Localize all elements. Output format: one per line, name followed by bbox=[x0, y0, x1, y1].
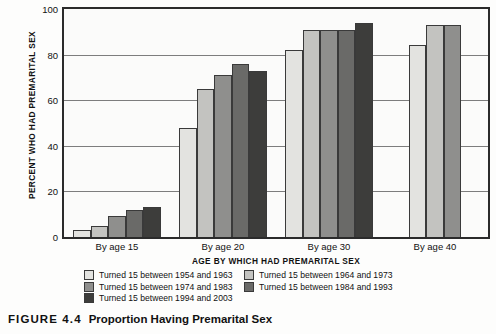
plot-inner bbox=[64, 9, 488, 237]
legend-item: Turned 15 between 1994 and 2003 bbox=[84, 293, 232, 303]
bar bbox=[285, 50, 303, 237]
bar bbox=[320, 30, 338, 237]
figure-number: FIGURE 4.4 bbox=[8, 313, 82, 325]
bar bbox=[426, 25, 444, 237]
bar bbox=[355, 23, 373, 237]
bar bbox=[91, 226, 109, 237]
legend-item: Turned 15 between 1974 and 1983 bbox=[84, 282, 232, 292]
x-axis-title: AGE BY WHICH HAD PREMARITAL SEX bbox=[62, 256, 490, 266]
legend-label: Turned 15 between 1994 and 2003 bbox=[99, 293, 232, 303]
legend-label: Turned 15 between 1964 and 1973 bbox=[259, 270, 392, 280]
x-category-label: By age 30 bbox=[308, 241, 351, 252]
bar bbox=[214, 75, 232, 237]
bar-group bbox=[285, 9, 373, 237]
bar bbox=[197, 89, 215, 237]
bar bbox=[143, 207, 161, 237]
figure-title: Proportion Having Premarital Sex bbox=[89, 313, 272, 325]
x-axis-category-labels: By age 15By age 20By age 30By age 40 bbox=[62, 241, 490, 255]
legend-swatch-icon bbox=[244, 282, 254, 292]
legend-swatch-icon bbox=[84, 293, 94, 303]
chart-legend: Turned 15 between 1954 and 1963Turned 15… bbox=[62, 270, 462, 304]
bar-group bbox=[179, 9, 267, 237]
y-tick-label: 40 bbox=[30, 140, 58, 151]
bar bbox=[232, 64, 250, 237]
y-axis-tick-labels: 020406080100 bbox=[30, 0, 58, 245]
y-tick-label: 60 bbox=[30, 95, 58, 106]
legend-label: Turned 15 between 1974 and 1983 bbox=[99, 282, 232, 292]
bar-group bbox=[409, 9, 462, 237]
bars-layer bbox=[64, 9, 488, 237]
x-category-label: By age 40 bbox=[414, 241, 457, 252]
bar bbox=[108, 216, 126, 237]
y-tick-label: 20 bbox=[30, 186, 58, 197]
legend-swatch-icon bbox=[84, 270, 94, 280]
bar-group bbox=[73, 9, 161, 237]
legend-item: Turned 15 between 1984 and 1993 bbox=[244, 282, 392, 292]
bar bbox=[409, 45, 427, 237]
x-category-label: By age 20 bbox=[202, 241, 245, 252]
bar bbox=[249, 71, 267, 237]
bar bbox=[73, 230, 91, 237]
legend-swatch-icon bbox=[84, 282, 94, 292]
y-tick-label: 0 bbox=[30, 232, 58, 243]
bar bbox=[179, 128, 197, 237]
bar bbox=[303, 30, 321, 237]
y-tick-label: 100 bbox=[30, 4, 58, 15]
figure-caption: FIGURE 4.4Proportion Having Premarital S… bbox=[8, 313, 488, 325]
y-tick-label: 80 bbox=[30, 49, 58, 60]
figure-container: PERCENT WHO HAD PREMARITAL SEX 020406080… bbox=[0, 0, 496, 334]
bar bbox=[338, 30, 356, 237]
legend-item: Turned 15 between 1954 and 1963 bbox=[84, 270, 232, 280]
legend-item: Turned 15 between 1964 and 1973 bbox=[244, 270, 392, 280]
legend-label: Turned 15 between 1954 and 1963 bbox=[99, 270, 232, 280]
legend-swatch-icon bbox=[244, 270, 254, 280]
plot-area bbox=[62, 7, 490, 239]
x-category-label: By age 15 bbox=[96, 241, 139, 252]
legend-label: Turned 15 between 1984 and 1993 bbox=[259, 282, 392, 292]
bar bbox=[444, 25, 462, 237]
bar bbox=[126, 210, 144, 237]
